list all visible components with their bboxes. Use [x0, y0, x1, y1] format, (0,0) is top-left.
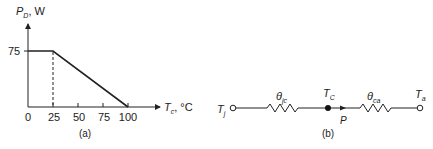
figure: PD, W 75 0 25 50 75 100 Tc, °C (a) Tj	[0, 0, 433, 149]
flow-label-p: P	[340, 115, 347, 126]
resistor-label-theta-jc: θjc	[276, 90, 288, 105]
node-label-ta: Ta	[415, 88, 426, 102]
node-tc	[325, 105, 331, 111]
resistor-theta-jc	[267, 104, 298, 112]
x-axis-label: Tc, °C	[164, 101, 193, 115]
node-label-tj: Tj	[217, 103, 226, 118]
y-axis-label: PD, W	[16, 5, 46, 19]
x-tick-label-100: 100	[119, 111, 137, 123]
node-label-tc: TC	[323, 87, 336, 101]
caption-a: (a)	[79, 128, 91, 139]
x-tick-label-75: 75	[98, 111, 110, 123]
flow-arrow-icon	[340, 106, 346, 111]
y-tick-label-75: 75	[8, 45, 20, 57]
x-tick-label-50: 50	[73, 111, 85, 123]
resistor-label-theta-ca: θca	[367, 90, 380, 104]
node-ta-terminal	[417, 105, 423, 111]
x-tick-label-25: 25	[48, 111, 60, 123]
node-tj-terminal	[230, 105, 236, 111]
caption-b: (b)	[322, 128, 334, 139]
derating-curve	[28, 51, 128, 107]
thermal-circuit: Tj θjc TC P θca Ta (b)	[217, 87, 426, 139]
derating-chart: PD, W 75 0 25 50 75 100 Tc, °C (a)	[8, 5, 193, 139]
resistor-theta-ca	[360, 104, 391, 112]
x-tick-label-0: 0	[25, 111, 31, 123]
